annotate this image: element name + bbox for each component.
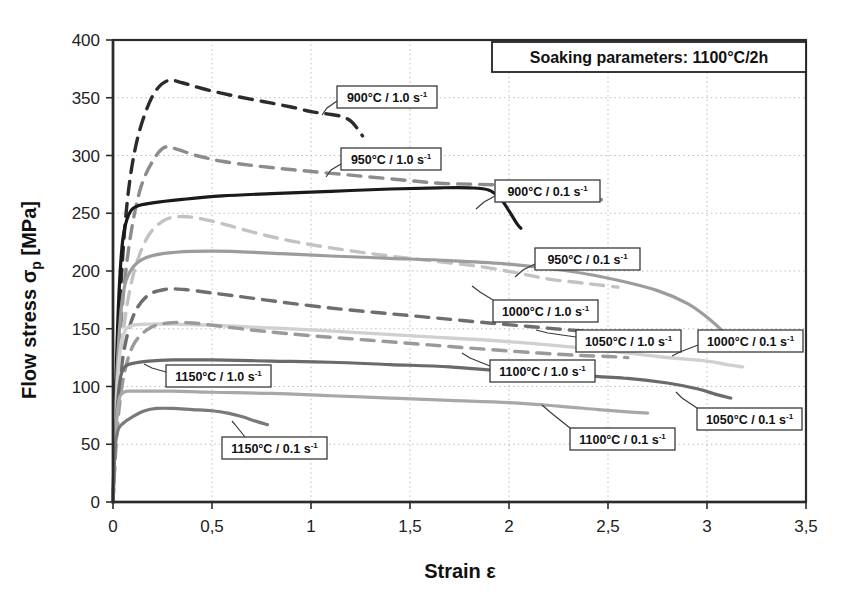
y-tick-label: 300 bbox=[72, 147, 100, 166]
callout-leader bbox=[476, 196, 495, 209]
callout-label: 1150°C / 0.1 s-1 bbox=[231, 441, 318, 456]
flow-stress-strain-chart: 05010015020025030035040000,511,522,533,5… bbox=[0, 0, 854, 594]
y-axis-title-text: Flow stress σ bbox=[18, 269, 40, 399]
callout-a2: 950°C / 1.0 s-1 bbox=[326, 148, 441, 177]
callout-label: 1000°C / 0.1 s-1 bbox=[707, 334, 795, 349]
title-text: Soaking parameters: 1100°C/2h bbox=[530, 49, 769, 66]
callout-a10: 1050°C / 0.1 s-1 bbox=[676, 392, 802, 430]
x-axis-title: Strain ε bbox=[424, 560, 496, 582]
y-tick-label: 250 bbox=[72, 204, 100, 223]
gridlines bbox=[113, 40, 806, 502]
callout-a1: 900°C / 1.0 s-1 bbox=[322, 86, 437, 115]
callout-leader bbox=[676, 392, 697, 408]
callout-label: 900°C / 1.0 s-1 bbox=[347, 90, 428, 105]
x-tick-label: 3 bbox=[702, 517, 711, 536]
y-tick-label: 50 bbox=[81, 435, 100, 454]
callout-label: 1100°C / 1.0 s-1 bbox=[499, 364, 586, 379]
x-tick-label: 1,5 bbox=[398, 517, 422, 536]
callout-label: 1150°C / 1.0 s-1 bbox=[175, 369, 262, 384]
callout-a7: 1000°C / 0.1 s-1 bbox=[672, 330, 803, 356]
callout-label: 1000°C / 1.0 s-1 bbox=[502, 304, 590, 319]
callout-leader bbox=[542, 405, 570, 428]
series-callouts: 900°C / 1.0 s-1950°C / 1.0 s-1900°C / 0.… bbox=[144, 86, 803, 459]
y-tick-label: 100 bbox=[72, 378, 100, 397]
y-tick-label: 0 bbox=[91, 493, 100, 512]
y-axis-title: Flow stress σp [MPa] bbox=[18, 201, 44, 399]
callout-label: 1050°C / 1.0 s-1 bbox=[585, 334, 673, 349]
callout-leader bbox=[472, 286, 493, 300]
callout-label: 1100°C / 0.1 s-1 bbox=[579, 432, 666, 447]
curve-series-9 bbox=[113, 391, 648, 502]
x-tick-label: 3,5 bbox=[794, 517, 818, 536]
x-tick-label: 0,5 bbox=[200, 517, 224, 536]
chart-figure: 05010015020025030035040000,511,522,533,5… bbox=[0, 0, 854, 594]
x-tick-label: 2,5 bbox=[596, 517, 620, 536]
callout-a6: 1050°C / 1.0 s-1 bbox=[536, 330, 681, 352]
axis-ticks: 05010015020025030035040000,511,522,533,5 bbox=[72, 31, 818, 536]
callout-label: 1050°C / 0.1 s-1 bbox=[706, 412, 794, 427]
callout-label: 900°C / 0.1 s-1 bbox=[507, 184, 588, 199]
callout-a5: 1000°C / 1.0 s-1 bbox=[472, 286, 598, 322]
y-tick-label: 350 bbox=[72, 89, 100, 108]
callout-leader bbox=[232, 421, 245, 437]
callout-label: 950°C / 1.0 s-1 bbox=[351, 152, 432, 167]
callout-label: 950°C / 0.1 s-1 bbox=[547, 252, 628, 267]
y-axis-title-text2: [MPa] bbox=[18, 201, 40, 261]
y-tick-label: 200 bbox=[72, 262, 100, 281]
callout-a9: 1150°C / 1.0 s-1 bbox=[144, 364, 271, 387]
soaking-parameters-box: Soaking parameters: 1100°C/2h bbox=[492, 42, 806, 72]
x-tick-label: 2 bbox=[504, 517, 513, 536]
callout-a8: 1100°C / 1.0 s-1 bbox=[462, 353, 595, 382]
callout-a3: 900°C / 0.1 s-1 bbox=[476, 180, 600, 209]
svg-text:Flow stress σp [MPa]: Flow stress σp [MPa] bbox=[18, 201, 44, 399]
x-tick-label: 0 bbox=[108, 517, 117, 536]
y-axis-title-sub: p bbox=[28, 261, 44, 270]
y-tick-label: 400 bbox=[72, 31, 100, 50]
callout-leader bbox=[144, 364, 166, 372]
x-tick-label: 1 bbox=[306, 517, 315, 536]
callout-leader bbox=[462, 353, 490, 366]
y-tick-label: 150 bbox=[72, 320, 100, 339]
